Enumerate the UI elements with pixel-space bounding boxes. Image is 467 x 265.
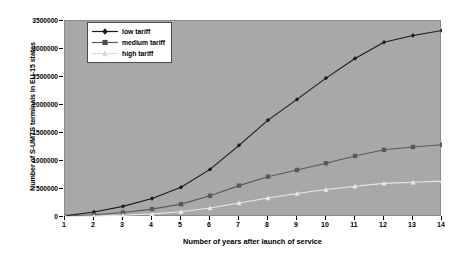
x-tick-label: 14: [437, 221, 445, 228]
chart-container: Number of S-UMTS terminals in EU-15 stat…: [0, 0, 467, 265]
x-tick-label: 10: [321, 221, 329, 228]
data-point: [237, 183, 241, 187]
legend-marker-square-icon: [92, 38, 118, 47]
data-point: [382, 148, 386, 152]
data-point: [353, 154, 357, 158]
legend-label-high-tariff: high tariff: [122, 50, 153, 57]
x-tick-label: 3: [120, 221, 124, 228]
data-point: [440, 28, 442, 32]
data-point: [382, 40, 386, 44]
data-point: [324, 161, 328, 165]
data-point: [295, 168, 299, 172]
x-tick-label: 5: [178, 221, 182, 228]
legend-item-low-tariff[interactable]: low tariff: [92, 26, 165, 37]
x-tick-label: 4: [149, 221, 153, 228]
data-point: [411, 33, 415, 37]
x-tick-label: 12: [379, 221, 387, 228]
data-point: [440, 143, 442, 147]
legend-item-high-tariff[interactable]: high tariff: [92, 48, 165, 59]
x-tick-label: 13: [408, 221, 416, 228]
x-axis-title: Number of years after launch of service: [64, 237, 441, 246]
x-tick-label: 8: [265, 221, 269, 228]
data-point: [208, 194, 212, 198]
x-tick-label: 6: [207, 221, 211, 228]
legend-marker-triangle-icon: [92, 49, 118, 58]
legend-marker-diamond-icon: [92, 27, 118, 36]
legend-label-low-tariff: low tariff: [122, 28, 150, 35]
x-tick-label: 11: [350, 221, 357, 228]
chart-legend: low tariff medium tariff high tariff: [87, 22, 172, 63]
data-point: [266, 174, 270, 178]
data-point: [411, 145, 415, 149]
legend-label-medium-tariff: medium tariff: [122, 39, 165, 46]
data-point: [150, 207, 154, 211]
x-tick-label: 1: [62, 221, 66, 228]
x-tick-label: 2: [91, 221, 95, 228]
legend-item-medium-tariff[interactable]: medium tariff: [92, 37, 165, 48]
x-tick-label: 9: [294, 221, 298, 228]
data-point: [121, 204, 125, 208]
data-point: [150, 196, 154, 200]
data-point: [179, 202, 183, 206]
x-tick-label: 7: [236, 221, 240, 228]
